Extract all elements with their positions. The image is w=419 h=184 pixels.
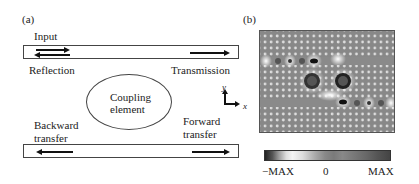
axis-x-arrow-icon xyxy=(235,101,240,107)
forward-arrowhead-icon xyxy=(224,149,230,155)
backward-arrow xyxy=(42,151,73,153)
forward-label-line2: transfer xyxy=(183,129,217,140)
axis-x-label: x xyxy=(243,101,247,112)
input-arrowhead-icon xyxy=(64,47,70,53)
coupling-label-line1: Coupling xyxy=(110,92,151,103)
field-map xyxy=(259,30,395,133)
colorbar xyxy=(264,150,391,161)
colorbar-mid-label: 0 xyxy=(323,166,329,177)
transmission-arrowhead-icon xyxy=(224,50,230,56)
panel-b-label: (b) xyxy=(243,14,256,25)
axis-x-line xyxy=(224,103,235,105)
field-map-graphic xyxy=(260,31,394,132)
input-arrow xyxy=(36,49,64,51)
colorbar-max-label: MAX xyxy=(368,166,394,177)
input-label: Input xyxy=(34,31,57,42)
colorbar-min-label: −MAX xyxy=(262,166,294,177)
forward-arrow xyxy=(192,151,224,153)
axis-y-arrow-icon xyxy=(222,89,228,94)
backward-label-line1: Backward xyxy=(34,120,79,131)
reflection-label: Reflection xyxy=(29,65,75,76)
transmission-label: Transmission xyxy=(171,65,230,76)
reflection-arrow xyxy=(40,54,70,56)
forward-label-line1: Forward xyxy=(183,116,220,127)
backward-label-line2: transfer xyxy=(34,133,68,144)
transmission-arrow xyxy=(190,52,224,54)
coupling-label-line2: element xyxy=(110,104,145,115)
panel-a-label: (a) xyxy=(22,14,34,25)
